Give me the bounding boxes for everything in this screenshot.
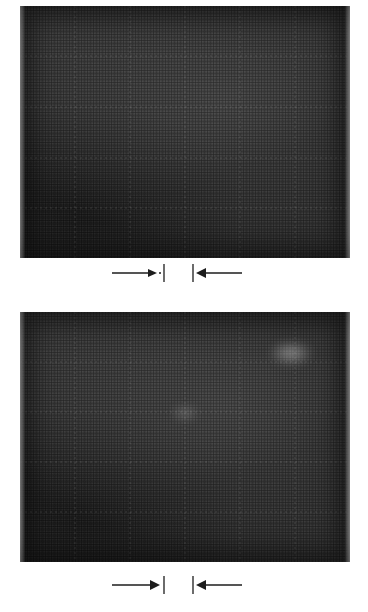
upper-oscilloscope-photo <box>20 6 350 258</box>
arrow-right-to-tick-icon <box>110 574 168 596</box>
lower-caption-row <box>0 570 368 600</box>
tick-to-arrow-left-icon <box>190 574 252 596</box>
marker-gap <box>168 273 190 274</box>
figure-page <box>0 0 368 612</box>
upper-dimension-marker <box>110 260 258 286</box>
graticule-grid <box>20 6 350 258</box>
marker-gap <box>168 585 190 586</box>
upper-trace-canvas <box>20 6 350 258</box>
arrow-right-to-tick-icon <box>110 262 168 284</box>
upper-caption-row <box>0 258 368 288</box>
lower-oscilloscope-photo <box>20 312 350 562</box>
lower-dimension-marker <box>110 572 258 598</box>
tick-to-arrow-left-icon <box>190 262 252 284</box>
graticule-grid <box>20 312 350 562</box>
lower-trace-canvas <box>20 312 350 562</box>
